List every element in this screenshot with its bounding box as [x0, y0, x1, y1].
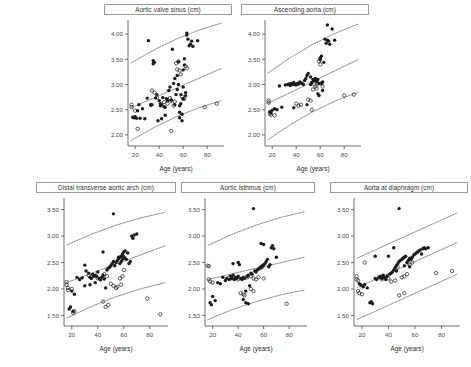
data-point-open	[310, 108, 313, 111]
data-point-filled	[374, 254, 377, 257]
x-tick-label: 20	[68, 331, 75, 338]
y-tick-label: 2.00	[111, 131, 124, 138]
data-point-filled	[211, 295, 214, 298]
data-point-filled	[302, 83, 305, 86]
data-point-open	[153, 91, 156, 94]
data-point-filled	[129, 260, 132, 263]
data-point-filled	[164, 105, 167, 108]
data-point-filled	[252, 207, 255, 210]
data-point-filled	[177, 83, 180, 86]
chart-panel: Aortic isthmus (cm)1.502.002.503.003.502…	[181, 182, 315, 362]
data-point-filled	[219, 282, 222, 285]
data-point-filled	[392, 246, 395, 249]
data-point-filled	[363, 283, 366, 286]
y-tick-label: 3.50	[188, 206, 201, 213]
data-point-filled	[173, 77, 176, 80]
data-point-filled	[196, 39, 199, 42]
data-point-filled	[266, 258, 269, 261]
x-tick-label: 40	[293, 151, 300, 158]
data-point-filled	[321, 89, 324, 92]
data-point-filled	[143, 117, 146, 120]
plot-area: 1.502.002.503.003.5020406080	[181, 182, 315, 362]
data-point-filled	[309, 75, 312, 78]
data-point-filled	[149, 103, 152, 106]
y-tick-label: 3.00	[248, 81, 261, 88]
data-point-filled	[317, 94, 320, 97]
data-point-filled	[395, 269, 398, 272]
data-point-filled	[180, 113, 183, 116]
x-tick-label: 40	[94, 331, 101, 338]
data-point-open	[434, 271, 437, 274]
data-point-filled	[182, 85, 185, 88]
data-point-open	[122, 268, 125, 271]
x-tick-label: 60	[317, 151, 324, 158]
data-point-open	[363, 261, 366, 264]
x-tick-label: 60	[180, 151, 187, 158]
plot-area: 2.002.503.003.504.0020406080	[104, 4, 232, 180]
data-point-filled	[182, 68, 185, 71]
y-tick-label: 3.50	[248, 56, 261, 63]
x-tick-label: 40	[235, 331, 242, 338]
data-point-filled	[190, 39, 193, 42]
data-point-filled	[366, 286, 369, 289]
data-point-filled	[305, 103, 308, 106]
data-point-filled	[272, 247, 275, 250]
data-point-filled	[397, 207, 400, 210]
data-point-open	[257, 276, 260, 279]
data-point-filled	[69, 305, 72, 308]
data-point-filled	[214, 299, 217, 302]
y-tick-label: 2.00	[188, 285, 201, 292]
data-point-filled	[280, 105, 283, 108]
data-point-open	[121, 275, 124, 278]
data-point-filled	[138, 117, 141, 120]
x-tick-label: 80	[146, 331, 153, 338]
data-point-open	[159, 313, 162, 316]
data-point-filled	[178, 104, 181, 107]
data-point-filled	[275, 108, 278, 111]
data-point-filled	[307, 72, 310, 75]
data-point-filled	[404, 254, 407, 257]
y-tick-label: 2.00	[337, 285, 350, 292]
data-point-filled	[167, 89, 170, 92]
y-tick-label: 2.50	[111, 106, 124, 113]
data-point-open	[393, 279, 396, 282]
trend-line	[130, 23, 221, 63]
data-point-filled	[137, 103, 140, 106]
data-point-filled	[172, 82, 175, 85]
chart-panel: Ascending aorta (cm)2.002.503.003.504.00…	[241, 4, 369, 180]
data-point-filled	[112, 212, 115, 215]
y-tick-label: 1.50	[337, 312, 350, 319]
x-tick-label: 80	[286, 331, 293, 338]
data-point-filled	[326, 23, 329, 26]
data-point-filled	[180, 119, 183, 122]
data-point-open	[450, 269, 453, 272]
data-point-filled	[88, 283, 91, 286]
y-tick-label: 3.00	[111, 81, 124, 88]
data-point-open	[262, 277, 265, 280]
data-point-open	[179, 73, 182, 76]
data-point-filled	[96, 270, 99, 273]
data-point-filled	[73, 293, 76, 296]
data-point-open	[166, 102, 169, 105]
y-tick-label: 2.50	[248, 106, 261, 113]
data-point-filled	[174, 93, 177, 96]
plot-area: 1.502.002.503.003.5020406080	[330, 182, 468, 362]
y-tick-label: 4.00	[248, 30, 261, 37]
data-point-open	[173, 100, 176, 103]
x-tick-label: 80	[204, 151, 211, 158]
data-point-filled	[247, 302, 250, 305]
x-axis-label: Age (years)	[64, 345, 168, 352]
y-tick-label: 2.00	[248, 131, 261, 138]
data-point-open	[273, 114, 276, 117]
data-point-filled	[101, 250, 104, 253]
data-point-filled	[141, 107, 144, 110]
x-tick-label: 40	[156, 151, 163, 158]
data-point-filled	[403, 264, 406, 267]
data-point-open	[319, 63, 322, 66]
data-point-filled	[210, 303, 213, 306]
data-point-filled	[371, 302, 374, 305]
y-tick-label: 2.00	[47, 285, 60, 292]
data-point-filled	[304, 77, 307, 80]
x-axis-label: Age (years)	[265, 165, 361, 172]
y-tick-label: 3.50	[111, 56, 124, 63]
